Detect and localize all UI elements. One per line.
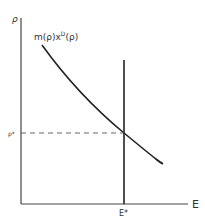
- y-axis-label: ρ: [12, 14, 18, 24]
- equilibrium-price-label: ρ*: [8, 130, 15, 138]
- equilibrium-quantity-label: E*: [119, 209, 128, 218]
- x-axis-label: E: [192, 198, 199, 211]
- curve-label-suffix: (ρ): [65, 32, 78, 42]
- curve-label-base: m(ρ)x: [34, 32, 62, 42]
- demand-curve: [42, 45, 162, 164]
- diagram-canvas: ρ E m(ρ)xD(ρ) ρ* E*: [0, 0, 205, 220]
- curve-label: m(ρ)xD(ρ): [34, 30, 78, 42]
